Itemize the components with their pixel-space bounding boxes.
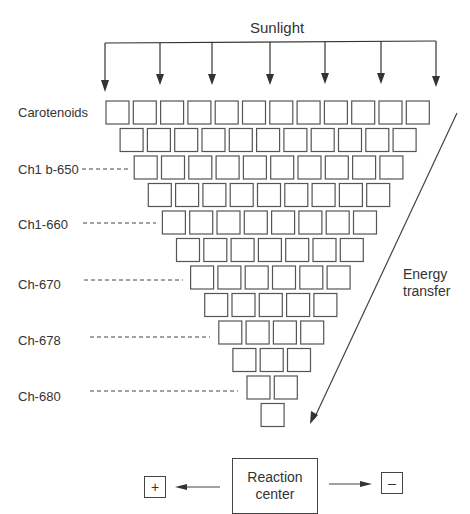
pigment-box xyxy=(245,266,268,289)
pigment-box xyxy=(162,211,185,234)
reaction-center-line2: center xyxy=(256,486,295,503)
negative-charge-box: – xyxy=(381,472,403,494)
pigment-box xyxy=(257,129,280,152)
pigment-box xyxy=(162,156,185,179)
pigment-box xyxy=(177,239,200,262)
pigment-box xyxy=(327,266,350,289)
sunlight-title: Sunlight xyxy=(250,19,304,36)
pigment-box xyxy=(231,239,254,262)
pigment-box xyxy=(354,211,377,234)
pigment-box xyxy=(273,321,296,344)
pigment-box xyxy=(324,101,347,124)
pigment-box xyxy=(353,156,376,179)
pigment-box xyxy=(300,266,323,289)
pigment-box xyxy=(393,129,416,152)
pigment-box xyxy=(204,239,227,262)
label-ch-670: Ch-670 xyxy=(18,277,61,292)
pigment-box xyxy=(285,184,308,207)
pigment-box xyxy=(218,266,241,289)
pigment-box xyxy=(301,321,324,344)
pigment-box xyxy=(299,211,322,234)
pigment-box xyxy=(189,156,212,179)
pigment-box xyxy=(191,266,214,289)
pigment-box xyxy=(133,101,156,124)
pigment-box xyxy=(246,321,269,344)
pigment-box xyxy=(161,101,184,124)
pigment-box xyxy=(188,101,211,124)
pigment-box xyxy=(232,294,255,317)
pigment-box xyxy=(190,211,213,234)
pigment-box xyxy=(147,129,170,152)
label-ch-678: Ch-678 xyxy=(18,333,61,348)
pigment-box xyxy=(339,129,362,152)
pigment-box xyxy=(176,184,199,207)
pigment-box xyxy=(175,129,198,152)
pigment-box xyxy=(215,101,238,124)
pigment-box xyxy=(260,349,283,372)
pigment-box xyxy=(270,101,293,124)
pigment-box xyxy=(205,294,228,317)
pigment-box xyxy=(284,129,307,152)
pigment-box xyxy=(339,184,362,207)
pigment-box xyxy=(314,294,337,317)
label-ch-680: Ch-680 xyxy=(18,389,61,404)
pigment-box xyxy=(272,211,295,234)
energy-transfer-line2: transfer xyxy=(403,283,450,300)
pigment-box xyxy=(258,239,281,262)
pigment-box xyxy=(379,101,402,124)
pigment-box xyxy=(287,294,310,317)
pigment-box xyxy=(325,156,348,179)
pigment-box xyxy=(134,156,157,179)
pigment-box xyxy=(148,184,171,207)
label-carotenoids: Carotenoids xyxy=(18,105,88,120)
pigment-box xyxy=(244,211,267,234)
pigment-box xyxy=(259,294,282,317)
pigment-box xyxy=(230,184,253,207)
pigment-box xyxy=(313,239,336,262)
pigment-box xyxy=(217,211,240,234)
pigment-box xyxy=(247,376,270,399)
reaction-center-line1: Reaction xyxy=(247,469,302,486)
pigment-box xyxy=(106,101,129,124)
pigment-box xyxy=(406,101,429,124)
pigment-box xyxy=(298,156,321,179)
pigment-box xyxy=(380,156,403,179)
pigment-box xyxy=(243,156,266,179)
pigment-box xyxy=(219,321,242,344)
pigment-box xyxy=(274,376,297,399)
pigment-box xyxy=(216,156,239,179)
pigment-box xyxy=(326,211,349,234)
pigment-box xyxy=(258,184,281,207)
pigment-box xyxy=(203,184,226,207)
pigment-box xyxy=(297,101,320,124)
pigment-box xyxy=(288,349,311,372)
arrowhead-negative xyxy=(360,481,372,487)
pigment-box xyxy=(312,184,335,207)
pigment-box xyxy=(286,239,309,262)
pigment-box xyxy=(366,129,389,152)
arrowheads-sunlight xyxy=(101,73,440,92)
pigment-box xyxy=(202,129,225,152)
energy-transfer-line1: Energy xyxy=(403,266,450,283)
pigment-pyramid xyxy=(106,101,429,427)
pigment-box xyxy=(271,156,294,179)
pigment-box xyxy=(229,129,252,152)
energy-transfer-label: Energy transfer xyxy=(403,266,450,300)
pigment-box xyxy=(273,266,296,289)
arrowhead-positive xyxy=(175,484,187,490)
pigment-box xyxy=(340,239,363,262)
reaction-center-box: Reaction center xyxy=(232,458,318,514)
pigment-box xyxy=(243,101,266,124)
positive-charge-box: + xyxy=(144,476,166,498)
pigment-box xyxy=(261,404,284,427)
label-chl-660: Ch1-660 xyxy=(18,217,68,232)
pigment-box xyxy=(120,129,143,152)
label-chl-b-650: Ch1 b-650 xyxy=(18,162,79,177)
pigment-box xyxy=(352,101,375,124)
pigment-box xyxy=(233,349,256,372)
pigment-box xyxy=(311,129,334,152)
pigment-box xyxy=(367,184,390,207)
